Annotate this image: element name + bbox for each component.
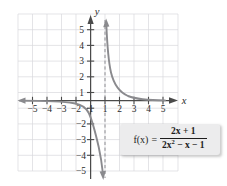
y-tick-label: −4 — [76, 151, 86, 161]
y-axis-label: y — [94, 6, 100, 17]
x-tick-label: −5 — [27, 104, 37, 114]
formula-function-name: f(x) — [133, 134, 148, 145]
formula-fraction: 2x + 1 2x2 − x − 1 — [160, 127, 207, 151]
y-tick-label: −2 — [76, 119, 86, 129]
axis-arrowheads — [88, 15, 179, 104]
y-tick-label: 5 — [79, 25, 84, 35]
curve-left-arrow — [18, 97, 26, 103]
rational-function-figure: −5 −4 −3 −2 −1 1 2 3 4 5 5 4 3 2 1 −2 −3… — [0, 0, 227, 186]
formula-denominator: 2x2 − x − 1 — [160, 139, 207, 152]
x-tick-labels: −5 −4 −3 −2 −1 1 2 3 4 5 — [27, 104, 165, 114]
x-tick-label: −3 — [56, 104, 66, 114]
y-tick-label: 4 — [79, 41, 84, 51]
x-tick-label: −4 — [42, 104, 52, 114]
denominator-base: 2x — [162, 141, 172, 151]
x-tick-label: 3 — [132, 104, 137, 114]
x-axis-label: x — [181, 95, 187, 106]
formula-equals-sign: = — [151, 134, 157, 145]
formula-numerator: 2x + 1 — [169, 127, 197, 137]
x-tick-label: 4 — [146, 104, 151, 114]
curve-right-branch — [106, 24, 165, 101]
y-axis-arrow — [88, 15, 94, 24]
x-axis-arrow — [169, 97, 178, 103]
x-tick-label: 5 — [161, 104, 166, 114]
y-tick-label: 3 — [79, 56, 84, 66]
curve-down-arrow — [100, 171, 106, 180]
curve-arrowheads — [18, 19, 110, 181]
curve-up-arrow — [103, 19, 109, 28]
formula-callout: f(x) = 2x + 1 2x2 − x − 1 — [120, 124, 220, 155]
denominator-rest: − x − 1 — [175, 141, 205, 151]
y-tick-label: 2 — [79, 72, 84, 82]
x-tick-label: 2 — [117, 104, 122, 114]
y-tick-label: 1 — [79, 88, 84, 98]
y-tick-label: −5 — [76, 166, 86, 176]
y-tick-label: −3 — [76, 135, 86, 145]
graph-canvas: −5 −4 −3 −2 −1 1 2 3 4 5 5 4 3 2 1 −2 −3… — [0, 0, 227, 186]
